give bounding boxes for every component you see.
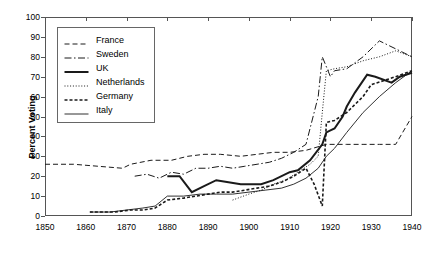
- legend-item-italy: Italy: [64, 103, 145, 117]
- chart-legend: FranceSwedenUKNetherlandsGermanyItaly: [57, 27, 155, 123]
- x-tick-label: 1930: [362, 222, 381, 232]
- series-line-sweden: [135, 41, 412, 178]
- x-tick-label: 1850: [36, 222, 55, 232]
- legend-item-sweden: Sweden: [64, 47, 145, 61]
- x-tick-label: 1890: [199, 222, 218, 232]
- legend-label: France: [96, 35, 124, 45]
- x-tick-label: 1920: [321, 222, 340, 232]
- series-line-netherlands: [233, 51, 412, 200]
- chart-container: Percent Voting 0102030405060708090100 18…: [0, 0, 429, 254]
- y-tick-label: 30: [31, 151, 40, 161]
- y-tick-label: 10: [31, 191, 40, 201]
- y-tick-label: 0: [35, 211, 40, 221]
- x-tick-label: 1870: [117, 222, 136, 232]
- y-tick-label: 100: [26, 12, 40, 22]
- y-tick-label: 70: [31, 72, 40, 82]
- legend-swatch-icon: [64, 77, 89, 87]
- legend-item-france: France: [64, 33, 145, 47]
- y-tick-label: 60: [31, 92, 40, 102]
- x-tick-mark: [412, 17, 413, 21]
- legend-label: Italy: [96, 105, 113, 115]
- legend-item-germany: Germany: [64, 89, 145, 103]
- y-tick-label: 80: [31, 52, 40, 62]
- legend-swatch-icon: [64, 105, 89, 115]
- legend-label: Germany: [96, 91, 133, 101]
- y-tick-label: 20: [31, 171, 40, 181]
- y-tick-label: 40: [31, 131, 40, 141]
- y-tick-label: 50: [31, 112, 40, 122]
- series-line-france: [45, 117, 412, 169]
- legend-item-netherlands: Netherlands: [64, 75, 145, 89]
- legend-swatch-icon: [64, 49, 89, 59]
- y-tick-label: 90: [31, 32, 40, 42]
- x-tick-label: 1860: [76, 222, 95, 232]
- x-tick-label: 1940: [403, 222, 422, 232]
- x-tick-label: 1910: [280, 222, 299, 232]
- legend-swatch-icon: [64, 35, 89, 45]
- legend-label: Netherlands: [96, 77, 145, 87]
- legend-item-uk: UK: [64, 61, 145, 75]
- legend-label: Sweden: [96, 49, 129, 59]
- legend-label: UK: [96, 63, 109, 73]
- series-line-uk: [167, 73, 412, 192]
- legend-swatch-icon: [64, 91, 89, 101]
- y-tick-mark: [41, 216, 45, 217]
- legend-swatch-icon: [64, 63, 89, 73]
- y-axis-label: Percent Voting: [27, 96, 37, 159]
- x-tick-label: 1900: [239, 222, 258, 232]
- x-tick-label: 1880: [158, 222, 177, 232]
